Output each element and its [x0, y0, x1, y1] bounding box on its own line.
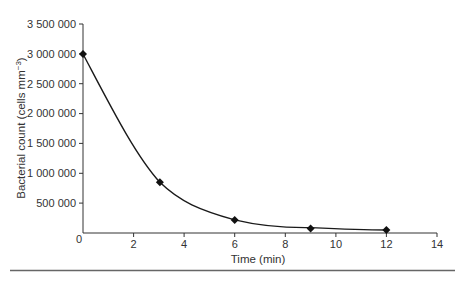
- y-tick-label: 3 000 000: [27, 48, 76, 60]
- x-tick-label: 4: [181, 238, 187, 250]
- chart: 500 000 1 000 000 1 500 000 2 000 000 2 …: [0, 0, 461, 281]
- data-curve: [83, 54, 386, 230]
- y-tick-label: 1 500 000: [27, 137, 76, 149]
- y-tick-label: 2 500 000: [27, 78, 76, 90]
- y-tick-label: 500 000: [36, 197, 76, 209]
- x-tick-labels: 2 4 6 8 10 12 14: [131, 238, 444, 250]
- y-tick-label: 3 500 000: [27, 18, 76, 30]
- y-axis-title: Bacterial count (cells mm−3): [14, 57, 27, 199]
- data-point-marker: [231, 216, 239, 224]
- y-tick-label: 1 000 000: [27, 167, 76, 179]
- x-tick-label: 10: [330, 238, 342, 250]
- x-tick-label: 14: [431, 238, 443, 250]
- y-tick-labels: 500 000 1 000 000 1 500 000 2 000 000 2 …: [27, 18, 76, 209]
- x-tick-label: 6: [232, 238, 238, 250]
- x-tick-label: 2: [131, 238, 137, 250]
- data-point-marker: [307, 225, 315, 233]
- data-point-marker: [79, 50, 87, 58]
- data-markers: [79, 50, 390, 234]
- y-tick-label: 2 000 000: [27, 107, 76, 119]
- x-axis-title: Time (min): [231, 253, 286, 265]
- x-tick-label: 8: [282, 238, 288, 250]
- origin-label: 0: [76, 233, 82, 245]
- x-ticks: [134, 233, 437, 237]
- x-tick-label: 12: [380, 238, 392, 250]
